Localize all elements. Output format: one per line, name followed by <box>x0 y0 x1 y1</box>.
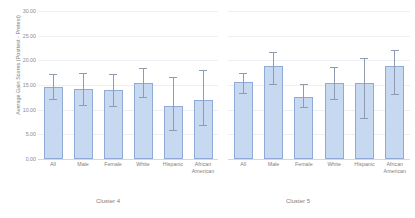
bar-chart: Average Gain Scores (Posttest - Pretest)… <box>0 0 415 218</box>
y-tick-label: 10.00 <box>2 107 36 113</box>
y-axis-tick-labels: 30.0025.0020.0015.0010.005.000.00 <box>0 0 36 218</box>
bar-slot <box>319 11 349 159</box>
x-tick-label: All <box>38 161 68 185</box>
bar-slot <box>380 11 410 159</box>
group-label-cluster-5: Cluster 5 <box>263 198 333 204</box>
x-axis-line <box>38 159 218 160</box>
error-bar <box>334 67 335 100</box>
x-tick-label: African American <box>188 161 218 185</box>
x-tick-label: Male <box>68 161 98 185</box>
y-tick-label: 15.00 <box>2 82 36 88</box>
y-tick-label: 25.00 <box>2 33 36 39</box>
bar-slot <box>258 11 288 159</box>
error-bar <box>243 73 244 95</box>
bar-slot <box>349 11 379 159</box>
y-tick-label: 5.00 <box>2 131 36 137</box>
error-bar <box>143 68 144 98</box>
y-tick-label: 30.00 <box>2 8 36 14</box>
error-bar <box>394 50 395 95</box>
x-tick-label: Hispanic <box>158 161 188 185</box>
error-bar <box>83 73 84 106</box>
bar-slot <box>98 11 128 159</box>
bar-series <box>228 11 410 159</box>
x-axis-categories-cluster-5: AllMaleFemaleWhiteHispanicAfrican Americ… <box>228 161 410 185</box>
y-tick-label: 20.00 <box>2 57 36 63</box>
x-tick-label: White <box>319 161 349 185</box>
error-bar <box>364 58 365 118</box>
bar-slot <box>289 11 319 159</box>
x-tick-label: Male <box>258 161 288 185</box>
error-bar <box>113 74 114 107</box>
x-tick-label: African American <box>380 161 410 185</box>
plot-area-cluster-4 <box>38 11 218 159</box>
x-axis-categories-cluster-4: AllMaleFemaleWhiteHispanicAfrican Americ… <box>38 161 218 185</box>
error-bar <box>273 52 274 84</box>
x-tick-label: White <box>128 161 158 185</box>
y-tick-label: 0.00 <box>2 156 36 162</box>
x-tick-label: Female <box>98 161 128 185</box>
bar-slot <box>38 11 68 159</box>
x-axis-line <box>228 159 410 160</box>
error-bar <box>53 74 54 101</box>
x-tick-label: All <box>228 161 258 185</box>
bar-slot <box>188 11 218 159</box>
bar-series <box>38 11 218 159</box>
plot-area-cluster-5 <box>228 11 410 159</box>
group-label-cluster-4: Cluster 4 <box>73 198 143 204</box>
error-bar <box>203 70 204 126</box>
x-tick-label: Female <box>289 161 319 185</box>
bar-slot <box>158 11 188 159</box>
bar-slot <box>228 11 258 159</box>
error-bar <box>173 77 174 131</box>
error-bar <box>303 84 304 108</box>
bar-slot <box>68 11 98 159</box>
x-tick-label: Hispanic <box>349 161 379 185</box>
bar-slot <box>128 11 158 159</box>
